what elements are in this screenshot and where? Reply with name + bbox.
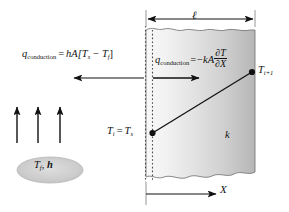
convection-equals: = xyxy=(56,48,66,59)
partial-derivative-fraction: ∂T∂X xyxy=(214,48,227,69)
conduction-equals: = xyxy=(189,54,197,65)
diagram-canvas xyxy=(0,0,289,212)
x-axis-label: X xyxy=(220,184,227,195)
fluid-flow-arrows xyxy=(17,107,60,143)
tip1-subscript: i+1 xyxy=(264,69,273,76)
conduction-q-subscript: conduction xyxy=(160,59,189,66)
conduction-coefficient: kA xyxy=(203,54,214,65)
thermal-conductivity-label: k xyxy=(225,130,230,141)
convection-rhs-close: ] xyxy=(110,48,114,59)
wall-thickness-label: ℓ xyxy=(192,10,197,21)
x-axis xyxy=(146,182,216,205)
convection-equation: qconduction=hA[Ts− Tf] xyxy=(22,49,113,60)
thermal-conduction-diagram: qconduction=hA[Ts− Tf] qconduction=−kA∂T… xyxy=(0,0,289,212)
fluid-properties-label: Tf, h xyxy=(34,160,53,171)
ti-equals: = xyxy=(115,125,125,136)
convection-rhs-minus: − T xyxy=(90,48,108,59)
convection-rhs-prefix: hA[T xyxy=(66,48,88,59)
right-node-temperature-label: Ti+1 xyxy=(258,65,273,76)
convection-coefficient-symbol: h xyxy=(47,159,53,170)
ts-subscript: s xyxy=(130,130,133,137)
fraction-denominator: ∂X xyxy=(214,59,227,69)
left-surface-temperature-label: Ti=Ts xyxy=(107,126,133,137)
node-marker-left xyxy=(149,130,155,136)
conduction-equation: qconduction=−kA∂T∂X xyxy=(155,48,227,69)
node-marker-right xyxy=(249,69,255,75)
wall-thickness-dimension xyxy=(146,10,255,27)
convection-q-subscript: conduction xyxy=(27,53,56,60)
